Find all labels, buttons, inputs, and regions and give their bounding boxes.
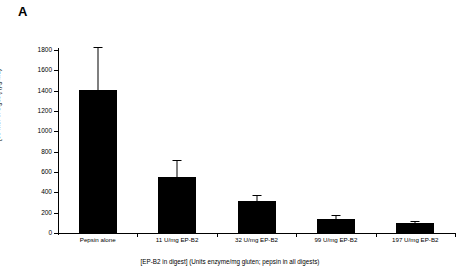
- y-tick-label: 0: [0, 229, 52, 237]
- bar: [317, 219, 355, 233]
- y-tick-label: 1400: [0, 87, 52, 95]
- y-tick-mark: [54, 233, 58, 234]
- y-tick-label: 1800: [0, 46, 52, 54]
- x-category-label: Pepsin alone: [58, 237, 137, 244]
- y-axis-title: [33-mer in digest] (µg/mL): [0, 69, 1, 141]
- y-tick-label: 600: [0, 168, 52, 176]
- bar-group: [317, 50, 355, 233]
- x-category-label: 197 U/mg EP-B2: [376, 237, 455, 244]
- bar-group: [238, 50, 276, 233]
- x-axis-line: [58, 233, 456, 234]
- plot-area: [58, 50, 455, 233]
- x-category-label: 32 U/mg EP-B2: [217, 237, 296, 244]
- bar-group: [396, 50, 434, 233]
- x-category-label: 11 U/mg EP-B2: [137, 237, 216, 244]
- bar-group: [158, 50, 196, 233]
- error-bar-cap: [252, 195, 261, 196]
- x-category-label: 99 U/mg EP-B2: [296, 237, 375, 244]
- y-tick-label: 400: [0, 188, 52, 196]
- error-bar-cap: [411, 221, 420, 222]
- error-bar-cap: [331, 215, 340, 216]
- error-bar-cap: [173, 160, 182, 161]
- x-tick-mark: [455, 233, 456, 237]
- bar: [238, 201, 276, 233]
- error-bar-line: [177, 160, 178, 177]
- bar: [79, 90, 117, 233]
- error-bar-line: [97, 47, 98, 90]
- y-tick-label: 1000: [0, 127, 52, 135]
- figure-panel-a: A 020040060080010001200140016001800 Peps…: [0, 0, 460, 273]
- bar: [396, 223, 434, 233]
- bar-group: [79, 50, 117, 233]
- y-tick-label: 1600: [0, 66, 52, 74]
- y-tick-label: 800: [0, 148, 52, 156]
- error-bar-cap: [93, 47, 102, 48]
- y-tick-label: 1200: [0, 107, 52, 115]
- y-tick-label: 200: [0, 209, 52, 217]
- x-axis-title: [EP-B2 in digest] (Units enzyme/mg glute…: [0, 258, 460, 265]
- bar: [158, 177, 196, 233]
- panel-letter: A: [18, 4, 28, 19]
